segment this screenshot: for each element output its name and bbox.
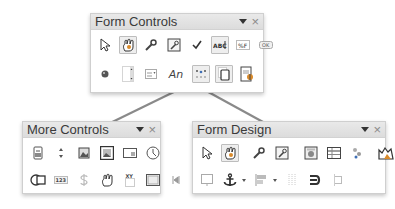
date-field-icon xyxy=(123,147,137,159)
list-box-button[interactable] xyxy=(119,65,137,83)
numerical-field-button[interactable] xyxy=(29,144,47,162)
design-mode-button[interactable] xyxy=(119,36,137,54)
wizards-button[interactable] xyxy=(238,65,256,83)
alignment-dropdown-icon[interactable] xyxy=(273,179,277,182)
check-box-button[interactable] xyxy=(188,36,206,54)
push-button-icon: OK xyxy=(259,40,273,50)
combo-box-button[interactable] xyxy=(142,65,160,83)
add-field-button[interactable] xyxy=(325,144,343,162)
close-icon[interactable]: × xyxy=(251,15,259,28)
snap-to-grid-button[interactable] xyxy=(329,171,347,189)
label-field-button[interactable]: An xyxy=(165,65,187,83)
time-field-icon xyxy=(146,146,160,160)
svg-text:123: 123 xyxy=(56,177,67,183)
label-field-icon: An xyxy=(169,68,184,81)
wizards-icon xyxy=(240,66,254,82)
design-mode-icon xyxy=(223,146,237,160)
control-properties-icon xyxy=(144,38,158,52)
form-navigator-icon xyxy=(304,146,318,160)
position-and-size-icon xyxy=(200,173,214,187)
form-properties-icon xyxy=(275,146,289,160)
formatted-field-icon: %F xyxy=(236,39,250,51)
toolbar-menu-icon[interactable] xyxy=(361,127,369,132)
svg-text:OK: OK xyxy=(262,42,270,48)
text-box-button[interactable]: ABC xyxy=(211,36,229,54)
numerical-field-icon xyxy=(33,146,43,160)
form-properties-icon xyxy=(167,38,181,52)
image-control-icon xyxy=(100,146,114,160)
formatted-xy-field-button[interactable]: XY xyxy=(121,171,139,189)
select-button[interactable] xyxy=(198,144,216,162)
screenshot-stage: Form Controls × ABC xyxy=(0,0,395,209)
alignment-icon xyxy=(254,173,268,187)
design-mode-icon xyxy=(121,38,135,52)
more-controls-titlebar[interactable]: More Controls × xyxy=(23,122,160,138)
navigation-bar-button[interactable] xyxy=(167,171,185,189)
table-control-icon xyxy=(146,174,160,186)
option-button-icon xyxy=(100,69,110,79)
wrap-button[interactable] xyxy=(306,171,324,189)
image-button-icon xyxy=(77,146,91,160)
snap-to-grid-icon xyxy=(332,174,344,186)
wrap-icon xyxy=(308,174,322,186)
list-box-icon xyxy=(122,66,134,82)
anchor-icon xyxy=(223,173,237,187)
pattern-field-icon xyxy=(100,173,114,187)
form-properties-button[interactable] xyxy=(273,144,291,162)
form-controls-titlebar[interactable]: Form Controls × xyxy=(91,14,263,30)
date-field-button[interactable] xyxy=(121,144,139,162)
more-controls-button[interactable] xyxy=(192,65,210,83)
open-in-design-mode-icon xyxy=(378,146,394,160)
image-button-button[interactable] xyxy=(75,144,93,162)
close-icon[interactable]: × xyxy=(373,123,381,136)
currency-field-icon xyxy=(78,173,90,187)
combo-box-icon xyxy=(145,66,157,82)
form-design-titlebar[interactable]: Form Design × xyxy=(193,122,385,138)
form-design-icon xyxy=(218,67,230,81)
toolbar-title: More Controls xyxy=(23,122,109,137)
toolbar-menu-icon[interactable] xyxy=(136,127,144,132)
formatted-xy-field-icon: XY xyxy=(124,173,136,187)
group-box-button[interactable] xyxy=(29,171,47,189)
form-design-button[interactable] xyxy=(215,65,233,83)
numeric-field-icon: 123 xyxy=(54,175,68,185)
image-control-button[interactable] xyxy=(98,144,116,162)
alignment-button[interactable] xyxy=(252,171,270,189)
spin-button-button[interactable] xyxy=(52,144,70,162)
anchor-button[interactable] xyxy=(221,171,239,189)
table-control-button[interactable] xyxy=(144,171,162,189)
text-box-icon: ABC xyxy=(213,39,227,51)
open-in-design-mode-button[interactable] xyxy=(377,144,395,162)
form-design-toolbar: Form Design × xyxy=(192,121,386,194)
option-button-button[interactable] xyxy=(96,65,114,83)
check-box-icon xyxy=(191,39,203,51)
currency-field-button[interactable] xyxy=(75,171,93,189)
control-properties-button[interactable] xyxy=(250,144,268,162)
svg-text:XY: XY xyxy=(126,173,134,179)
design-mode-button[interactable] xyxy=(221,144,239,162)
form-navigator-button[interactable] xyxy=(302,144,320,162)
time-field-button[interactable] xyxy=(144,144,162,162)
more-controls-icon xyxy=(194,68,208,80)
select-button[interactable] xyxy=(96,36,114,54)
push-button-button[interactable]: OK xyxy=(257,36,275,54)
form-controls-toolbar: Form Controls × ABC xyxy=(90,13,264,93)
control-properties-button[interactable] xyxy=(142,36,160,54)
activation-order-button[interactable] xyxy=(348,144,366,162)
formatted-field-button[interactable]: %F xyxy=(234,36,252,54)
form-properties-button[interactable] xyxy=(165,36,183,54)
toolbar-title: Form Controls xyxy=(91,14,177,29)
close-icon[interactable]: × xyxy=(148,123,156,136)
display-grid-icon xyxy=(286,173,298,187)
toolbar-menu-icon[interactable] xyxy=(239,19,247,24)
position-and-size-button[interactable] xyxy=(198,171,216,189)
activation-order-icon xyxy=(351,146,363,160)
display-grid-button[interactable] xyxy=(283,171,301,189)
svg-text:%F: %F xyxy=(238,42,248,49)
add-field-icon xyxy=(327,147,341,159)
more-controls-toolbar: More Controls × xyxy=(22,121,161,194)
navigation-bar-icon xyxy=(171,174,181,186)
numeric-field-button[interactable]: 123 xyxy=(52,171,70,189)
pattern-field-button[interactable] xyxy=(98,171,116,189)
anchor-dropdown-icon[interactable] xyxy=(242,179,246,182)
